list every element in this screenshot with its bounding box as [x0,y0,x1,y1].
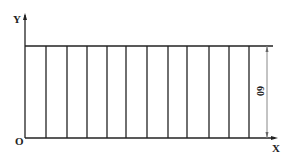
dimension-arrow-top-icon [266,46,269,52]
x-arrow-icon [271,136,278,140]
dimension-label: 60 [255,86,266,96]
strip-dividers [46,46,249,138]
x-axis-label: X [272,142,280,154]
strip-diagram: Y X O 60 [0,0,295,163]
y-arrow-icon [23,13,27,20]
x-axis [25,136,278,140]
y-axis-label: Y [13,13,21,25]
y-axis [23,13,27,138]
origin-label: O [15,135,24,147]
dimension-arrow-bottom-icon [266,132,269,138]
